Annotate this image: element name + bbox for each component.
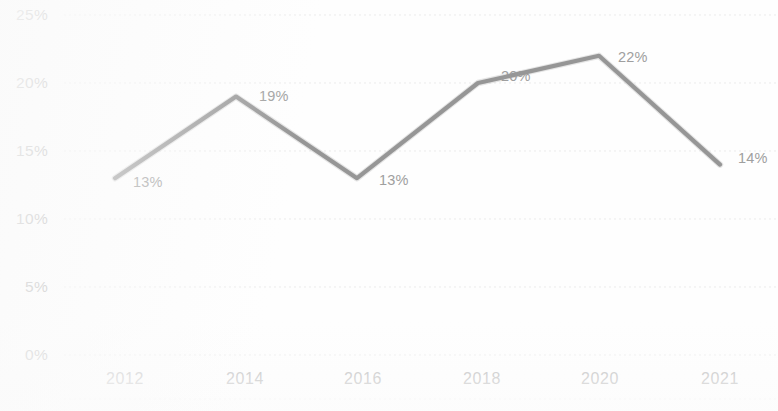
y-tick-label-15: 15%: [2, 142, 48, 160]
chart-plot-area: [0, 0, 778, 411]
series-line-primary: [115, 56, 720, 178]
x-tick-label-2018: 2018: [447, 370, 517, 388]
x-tick-label-2014: 2014: [210, 370, 280, 388]
y-tick-label-20: 20%: [2, 74, 48, 92]
data-label-2020: 22%: [618, 49, 648, 65]
y-tick-label-5: 5%: [2, 278, 48, 296]
x-tick-label-2016: 2016: [328, 370, 398, 388]
data-label-2014: 19%: [259, 88, 289, 104]
data-label-2021: 14%: [738, 150, 768, 166]
x-tick-label-2012: 2012: [90, 370, 160, 388]
data-label-2016: 13%: [379, 172, 409, 188]
line-chart: 25% 20% 15% 10% 5% 0% 2012 2014 2016 201…: [0, 0, 778, 411]
y-tick-label-25: 25%: [2, 6, 48, 24]
gridlines: [64, 15, 778, 399]
data-label-2018: 20%: [501, 68, 531, 84]
data-label-2012: 13%: [133, 174, 163, 190]
series-group: [115, 56, 720, 178]
y-tick-label-10: 10%: [2, 210, 48, 228]
x-tick-label-2021: 2021: [685, 370, 755, 388]
y-tick-label-0: 0%: [2, 346, 48, 364]
x-tick-label-2020: 2020: [565, 370, 635, 388]
